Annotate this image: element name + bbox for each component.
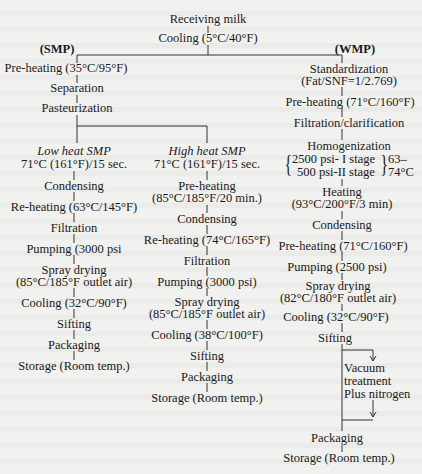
node-wmp-preheating-1: Pre-heating (71°C/160°F) [285, 96, 414, 109]
node-low-filtration: Filtration [51, 222, 98, 235]
node-high-cooling: Cooling (38°C/100°F) [151, 329, 263, 342]
node-wmp-pumping: Pumping (2500 psi) [287, 261, 386, 274]
node-low-pumping: Pumping (3000 psi [26, 243, 121, 256]
node-low-packaging: Packaging [48, 339, 100, 352]
node-wmp-packaging: Packaging [311, 432, 363, 445]
branch-label-smp: (SMP) [40, 42, 75, 57]
node-high-packaging: Packaging [181, 371, 233, 384]
node-wmp-sifting: Sifting [318, 332, 352, 345]
node-wmp-spray-drying-detail: (82°C/180°F outlet air) [280, 292, 396, 305]
node-wmp-cooling: Cooling (32°C/90°F) [283, 311, 389, 324]
node-high-condensing: Condensing [177, 213, 237, 226]
node-wmp-storage: Storage (Room temp.) [283, 452, 394, 465]
node-high-spray-drying-detail: (85°C/185°F outlet air) [149, 308, 265, 321]
node-wmp-preheating-2: Pre-heating (71°C/160°F) [278, 240, 407, 253]
node-smp-pasteurization: Pasteurization [42, 102, 113, 115]
node-high-sifting: Sifting [190, 350, 224, 363]
node-smp-preheating: Pre-heating (35°C/95°F) [5, 62, 128, 75]
node-wmp-plus-nitrogen: Plus nitrogen [344, 388, 410, 401]
node-receiving-milk: Receiving milk [170, 13, 247, 26]
node-low-spray-drying-detail: (85°C/185°F outlet air) [16, 276, 132, 289]
branch-label-wmp: (WMP) [335, 42, 375, 57]
node-cooling: Cooling (5°C/40°F) [158, 32, 257, 45]
node-high-preheating-detail: (85°C/185°F/20 min.) [152, 192, 262, 205]
node-low-sifting: Sifting [57, 318, 91, 331]
node-wmp-standardization-detail: (Fat/SNF=1/2.769) [301, 75, 397, 88]
brace-left-icon: { [284, 151, 291, 177]
node-wmp-temp-range-end: 74°C [388, 166, 414, 179]
brace-right-icon: } [380, 151, 387, 177]
node-smp-separation: Separation [50, 82, 103, 95]
node-low-heat-subtitle: 71°C (161°F)/15 sec. [21, 158, 127, 171]
node-low-storage: Storage (Room temp.) [18, 360, 129, 373]
node-low-cooling: Cooling (32°C/90°F) [21, 297, 127, 310]
node-wmp-heating-detail: (93°C/200°F/3 min) [292, 198, 393, 211]
node-wmp-stage-2: 500 psi-II stage [297, 166, 375, 179]
node-high-heat-subtitle: 71°C (161°F)/15 sec. [154, 158, 260, 171]
node-low-condensing: Condensing [44, 180, 104, 193]
node-high-storage: Storage (Room temp.) [151, 392, 262, 405]
node-high-reheating: Re-heating (74°C/165°F) [144, 234, 270, 247]
node-wmp-filtration: Filtration/clarification [294, 117, 404, 130]
node-wmp-condensing: Condensing [312, 219, 372, 232]
node-low-reheating: Re-heating (63°C/145°F) [11, 201, 137, 214]
node-high-pumping: Pumping (3000 psi) [157, 276, 256, 289]
node-high-filtration: Filtration [184, 255, 231, 268]
